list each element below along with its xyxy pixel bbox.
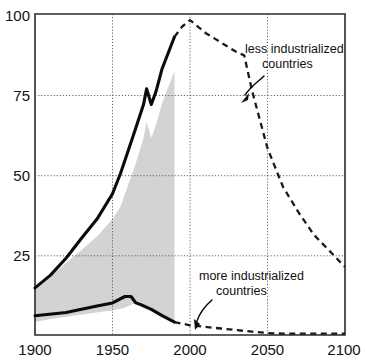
annotation-more-industrialized-leader [197,300,212,321]
series-more-industrialized-projected [175,322,346,334]
annotation-less-industrialized-line2: countries [262,57,313,71]
annotation-less-industrialized-leader [245,76,264,95]
x-tick-label-2050: 2050 [251,341,284,358]
x-tick-label-2100: 2100 [327,341,360,358]
annotation-more-industrialized-line1: more industrialized [199,269,304,283]
y-tick-label-75: 75 [13,87,30,104]
y-tick-label-25: 25 [13,247,30,264]
y-tick-label-100: 100 [5,7,30,24]
annotation-less-industrialized-line1: less industrialized [245,42,344,56]
historical-shaded-band [35,72,175,323]
y-tick-label-50: 50 [13,167,30,184]
population-projection-chart: 100 75 50 25 1900 1950 2000 2050 2100 le… [0,0,365,361]
chart-container: 100 75 50 25 1900 1950 2000 2050 2100 le… [0,0,365,361]
x-tick-label-1900: 1900 [18,341,51,358]
x-tick-label-2000: 2000 [173,341,206,358]
annotation-more-industrialized-line2: countries [216,284,267,298]
x-tick-label-1950: 1950 [96,341,129,358]
series-less-industrialized-projected [175,20,346,267]
